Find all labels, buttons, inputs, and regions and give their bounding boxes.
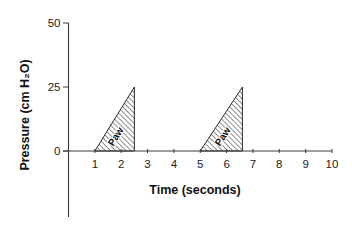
- paw-series: PawPaw: [95, 87, 243, 151]
- pressure-time-chart: PawPaw 12345678910 02550 Pressure (cm H₂…: [0, 0, 352, 232]
- x-axis-ticks: 12345678910: [92, 149, 339, 170]
- y-axis-label: Pressure (cm H₂O): [18, 59, 32, 170]
- y-tick-label: 0: [54, 145, 60, 157]
- x-tick-label: 6: [223, 158, 229, 170]
- x-axis-label: Time (seconds): [149, 183, 240, 197]
- y-tick-label: 25: [48, 81, 61, 93]
- x-tick-label: 7: [250, 158, 256, 170]
- x-tick-label: 8: [276, 158, 282, 170]
- y-tick-label: 50: [48, 17, 61, 29]
- x-tick-label: 5: [197, 158, 203, 170]
- y-axis-ticks: 02550: [48, 17, 69, 157]
- x-tick-label: 2: [118, 158, 124, 170]
- x-tick-label: 10: [326, 158, 339, 170]
- x-tick-label: 3: [144, 158, 150, 170]
- x-tick-label: 9: [302, 158, 308, 170]
- x-tick-label: 4: [171, 158, 178, 170]
- x-tick-label: 1: [92, 158, 98, 170]
